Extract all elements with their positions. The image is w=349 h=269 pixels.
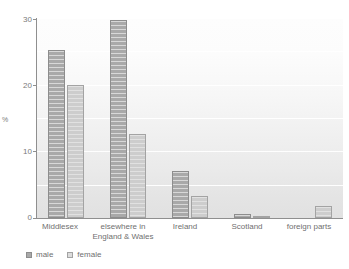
female-swatch-icon [67, 252, 73, 258]
bar-group-elsewhere-england-wales [110, 18, 146, 218]
bar-female-elsewhere-england-wales [129, 134, 146, 218]
x-axis-label-line1: Ireland [152, 222, 218, 232]
y-tick-mark-0 [33, 218, 36, 219]
x-axis-label-foreign-parts: foreign parts [274, 222, 344, 232]
bar-group-ireland [172, 18, 208, 218]
x-axis-label-scotland: Scotland [214, 222, 280, 232]
bar-male-ireland [172, 171, 189, 218]
y-tick-mark-10 [33, 151, 36, 152]
bar-group-foreign-parts [296, 18, 332, 218]
bar-male-scotland [234, 214, 251, 218]
plot-area [37, 18, 343, 218]
legend-label-male: male [36, 250, 53, 259]
x-axis-label-line1: elsewhere in [86, 222, 160, 232]
bar-group-scotland [234, 18, 270, 218]
bar-male-elsewhere-england-wales [110, 20, 127, 218]
x-axis-label-line1: Middlesex [26, 222, 94, 232]
male-swatch-icon [26, 252, 32, 258]
bar-group-middlesex [48, 18, 84, 218]
bar-male-middlesex [48, 50, 65, 218]
y-tick-label-10: 10 [12, 148, 32, 156]
bar-chart: % 30 20 10 0 [0, 0, 349, 269]
legend-label-female: female [77, 250, 101, 259]
bar-female-foreign-parts [315, 206, 332, 218]
x-axis-label-elsewhere-england-wales: elsewhere in England & Wales [86, 222, 160, 241]
y-tick-mark-20 [33, 85, 36, 86]
x-axis-label-middlesex: Middlesex [26, 222, 94, 232]
bar-female-middlesex [67, 85, 84, 218]
x-axis-label-line1: foreign parts [274, 222, 344, 232]
legend-entry-female[interactable]: female [67, 250, 101, 259]
y-tick-mark-30 [33, 19, 36, 20]
y-tick-label-0: 0 [12, 214, 32, 222]
bar-female-ireland [191, 196, 208, 218]
y-tick-label-20: 20 [12, 82, 32, 90]
x-axis-label-line2: England & Wales [86, 232, 160, 242]
legend-entry-male[interactable]: male [26, 250, 53, 259]
x-axis-label-line1: Scotland [214, 222, 280, 232]
bar-female-scotland [253, 216, 270, 218]
x-axis-label-ireland: Ireland [152, 222, 218, 232]
x-axis-line [33, 218, 343, 219]
legend: male female [26, 250, 101, 259]
y-tick-label-30: 30 [12, 16, 32, 24]
y-axis-title: % [2, 116, 8, 123]
